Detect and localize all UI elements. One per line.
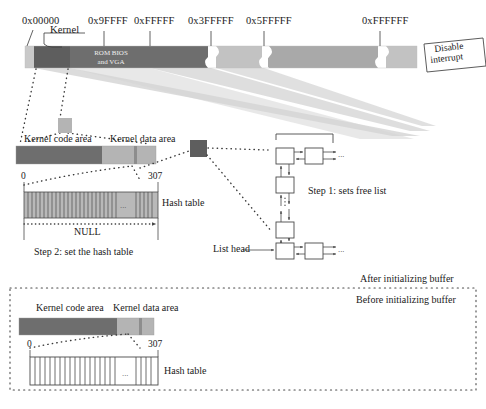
null-label: NULL [74,227,101,237]
hash-index-min: 0 [21,172,26,182]
rom-bios-label-line1: ROM BIOS [88,49,134,57]
hash-table-label: Hash table [162,198,205,208]
bottom-hash-index-max: 307 [148,340,162,350]
bottom-kernel-code-area-label: Kernel code area [36,303,104,313]
diagram-vector-layer [0,0,486,409]
address-label-3: 0x3FFFFF [188,16,234,27]
address-label-1: 0x9FFFF [88,16,128,27]
kernel-code-area-label: Kernel code area [24,134,92,144]
kernel-detail-bar [16,146,156,164]
address-label-2: 0xFFFFF [134,16,174,27]
rom-bios-label-line2: and VGA [88,58,134,66]
hash-ellipsis: ... [120,201,126,210]
address-ticks [27,30,380,46]
step2-label: Step 2: set the hash table [34,247,133,257]
kernel-data-area-label: Kernel data area [110,134,176,144]
free-list-structure [276,134,333,259]
bottom-hash-table-label: Hash table [164,366,207,376]
expansion-fans [34,68,436,139]
bottom-hash-ellipsis: ... [122,369,128,378]
kernel-label: Kernel [50,25,79,36]
address-label-4: 0x5FFFFF [246,16,292,27]
step1-label: Step 1: sets free list [308,186,386,196]
diagram-canvas: 0x00000 0x9FFFF 0xFFFFF 0x3FFFFF 0x5FFFF… [0,0,486,409]
free-list-ellipsis-bottom: ... [338,245,344,254]
bottom-hash-index-min: 0 [27,340,32,350]
list-head-label: List head [213,244,250,254]
address-label-5: 0xFFFFFF [362,16,408,27]
bottom-leader [30,334,140,348]
free-list-ellipsis-top: ... [338,150,344,159]
bottom-hash-table [30,350,158,385]
before-initializing-label: Before initializing buffer [356,295,456,305]
buffer-block-square [190,140,207,157]
bottom-kernel-data-area-label: Kernel data area [113,303,179,313]
kernel-block-marker [58,118,72,133]
free-list-arrows [243,152,336,254]
memory-bar-segments [25,46,417,68]
bottom-kernel-bar [19,318,154,335]
after-initializing-label: After initializing buffer [360,274,454,284]
hash-index-max: 307 [148,172,162,182]
